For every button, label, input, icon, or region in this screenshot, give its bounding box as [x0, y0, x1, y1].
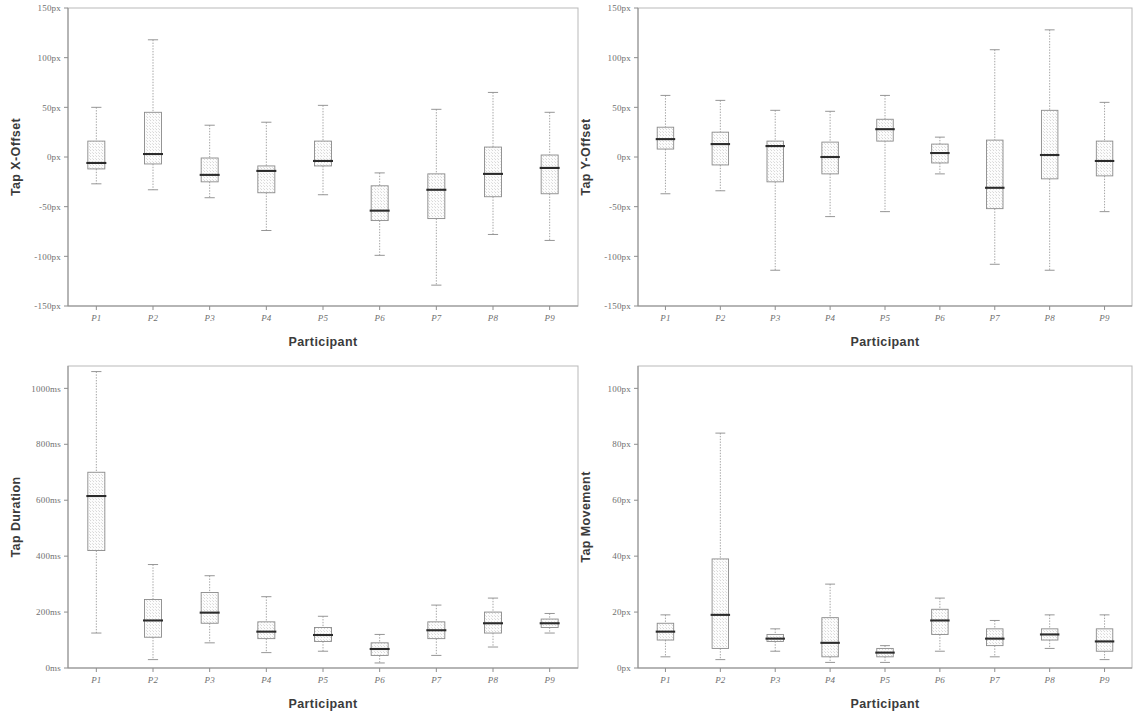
box-iqr: [767, 141, 783, 182]
x-axis-title: Participant: [289, 335, 358, 349]
boxplot-figure: 150px100px50px0px-50px-100px-150pxTap X-…: [0, 0, 1140, 726]
box-iqr: [428, 174, 445, 219]
boxplot-P8: [1040, 615, 1059, 649]
x-tick-label: P1: [659, 675, 670, 685]
box-iqr: [712, 132, 728, 165]
y-tick-label: 60px: [612, 495, 631, 505]
boxplot-P9: [1095, 615, 1114, 660]
x-tick-label: P1: [659, 313, 670, 323]
y-tick-label: 50px: [42, 103, 61, 113]
box-iqr: [258, 622, 275, 639]
y-tick-label: 0px: [47, 152, 61, 162]
x-tick-label: P4: [260, 675, 272, 685]
y-tick-label: 400ms: [36, 551, 61, 561]
box-iqr: [315, 141, 332, 166]
x-tick-label: P5: [879, 675, 891, 685]
boxplot-P6: [930, 137, 949, 174]
boxplot-P1: [86, 107, 106, 183]
boxplot-P7: [985, 620, 1004, 656]
x-tick-label: P4: [824, 675, 836, 685]
y-tick-label: -150px: [604, 301, 631, 311]
x-tick-label: P8: [1043, 313, 1055, 323]
x-tick-label: P7: [430, 675, 442, 685]
boxplot-P3: [765, 629, 784, 651]
x-tick-label: P8: [1043, 675, 1055, 685]
boxplot-P6: [370, 634, 390, 663]
x-axis-title: Participant: [851, 697, 920, 711]
y-tick-label: 150px: [38, 3, 62, 13]
box-iqr: [1096, 629, 1112, 651]
boxplot-P9: [1095, 102, 1114, 211]
x-tick-label: P3: [203, 675, 215, 685]
y-tick-label: 40px: [612, 551, 631, 561]
boxplot-P5: [313, 105, 333, 194]
x-tick-label: P3: [203, 313, 215, 323]
x-tick-label: P8: [487, 675, 499, 685]
box-iqr: [822, 618, 838, 657]
y-tick-label: 200ms: [36, 607, 61, 617]
box-iqr: [371, 186, 388, 221]
x-tick-label: P3: [769, 313, 781, 323]
box-iqr: [987, 140, 1003, 209]
x-tick-label: P9: [543, 675, 555, 685]
y-axis-title: Tap Movement: [579, 471, 593, 563]
x-tick-label: P7: [989, 313, 1001, 323]
box-iqr: [1041, 110, 1057, 179]
box-iqr: [485, 147, 502, 197]
chart-tap-duration: 1000ms800ms600ms400ms200ms0msTap Duratio…: [0, 358, 586, 726]
panel-tap-duration: 1000ms800ms600ms400ms200ms0msTap Duratio…: [0, 358, 586, 726]
x-tick-label: P1: [90, 675, 101, 685]
x-tick-label: P6: [934, 313, 946, 323]
x-tick-label: P6: [373, 313, 385, 323]
y-tick-label: 150px: [608, 3, 632, 13]
x-tick-label: P6: [934, 675, 946, 685]
boxplot-P4: [820, 111, 839, 216]
boxplot-P6: [930, 598, 949, 651]
x-tick-label: P8: [487, 313, 499, 323]
boxplot-P2: [143, 40, 163, 190]
boxplot-P2: [143, 565, 163, 660]
x-tick-label: P9: [1098, 675, 1110, 685]
boxplot-P5: [875, 95, 894, 211]
chart-tap-movement: 100px80px60px40px20px0pxTap MovementP1P2…: [570, 358, 1140, 726]
y-tick-label: 0ms: [45, 663, 61, 673]
y-tick-label: 100px: [38, 53, 62, 63]
boxplot-P5: [313, 616, 333, 651]
boxplot-P9: [540, 613, 560, 633]
boxplot-P2: [711, 433, 730, 659]
boxplot-P8: [483, 92, 503, 234]
x-axis-title: Participant: [289, 697, 358, 711]
box-iqr: [987, 629, 1003, 646]
boxplot-P9: [540, 112, 560, 240]
boxplot-P1: [656, 95, 675, 193]
boxplot-P7: [985, 50, 1004, 265]
box-iqr: [1096, 141, 1112, 176]
y-tick-label: -100px: [34, 252, 61, 262]
x-tick-label: P7: [989, 675, 1001, 685]
boxplot-P8: [483, 598, 503, 647]
x-tick-label: P4: [824, 313, 836, 323]
boxplot-P4: [256, 597, 276, 653]
x-tick-label: P2: [147, 313, 159, 323]
x-tick-label: P2: [714, 675, 726, 685]
x-tick-label: P6: [373, 675, 385, 685]
boxplot-P3: [200, 125, 220, 198]
x-tick-label: P5: [879, 313, 891, 323]
y-tick-label: -50px: [39, 202, 61, 212]
x-tick-label: P9: [543, 313, 555, 323]
y-tick-label: 80px: [612, 439, 631, 449]
panel-tap-y-offset: 150px100px50px0px-50px-100px-150pxTap Y-…: [570, 0, 1140, 364]
y-tick-label: 800ms: [36, 439, 61, 449]
box-iqr: [88, 141, 105, 169]
box-iqr: [712, 559, 728, 648]
box-iqr: [201, 593, 218, 624]
boxplot-P3: [200, 576, 220, 643]
y-tick-label: 20px: [612, 607, 631, 617]
x-tick-label: P1: [90, 313, 101, 323]
boxplot-P2: [711, 100, 730, 190]
y-tick-label: -100px: [604, 252, 631, 262]
boxplot-P1: [86, 372, 106, 633]
panel-tap-x-offset: 150px100px50px0px-50px-100px-150pxTap X-…: [0, 0, 586, 364]
x-tick-label: P5: [317, 675, 329, 685]
x-tick-label: P2: [147, 675, 159, 685]
